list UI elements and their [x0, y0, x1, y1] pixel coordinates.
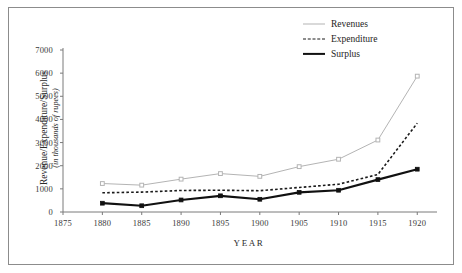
x-tick-label: 1915	[369, 218, 387, 228]
y-axis-title-main: Revenue/Expenditure/Surplus	[39, 71, 49, 185]
x-tick-label: 1910	[330, 218, 348, 228]
legend-item-revenues: Revenues	[303, 17, 443, 31]
legend-label-revenues: Revenues	[331, 19, 368, 29]
x-tick-label: 1905	[290, 218, 308, 228]
legend-label-expenditure: Expenditure	[331, 34, 377, 44]
x-tick-label: 1875	[54, 218, 72, 228]
x-tick-label: 1880	[93, 218, 111, 228]
legend-item-surplus: Surplus	[303, 47, 443, 61]
x-tick-label: 1900	[251, 218, 269, 228]
x-tick-label: 1885	[133, 218, 151, 228]
figure: 01000200030004000500060007000 1875188018…	[0, 0, 462, 273]
legend: Revenues Expenditure Surplus	[303, 17, 443, 62]
legend-item-expenditure: Expenditure	[303, 32, 443, 46]
legend-line-expenditure-icon	[303, 34, 325, 44]
y-axis-title-sub: (in thousands of rupees)	[51, 43, 61, 213]
legend-label-surplus: Surplus	[331, 49, 360, 59]
x-tick-label: 1895	[212, 218, 230, 228]
y-axis-title: Revenue/Expenditure/Surplus (in thousand…	[14, 40, 32, 215]
x-tick-label: 1890	[172, 218, 190, 228]
x-tick-label: 1920	[408, 218, 426, 228]
legend-line-revenues-icon	[303, 19, 325, 29]
legend-line-surplus-icon	[303, 49, 325, 59]
x-axis-ticklabels: 1875188018851890189519001905191019151920	[0, 215, 462, 231]
x-axis-title: YEAR	[0, 238, 462, 248]
